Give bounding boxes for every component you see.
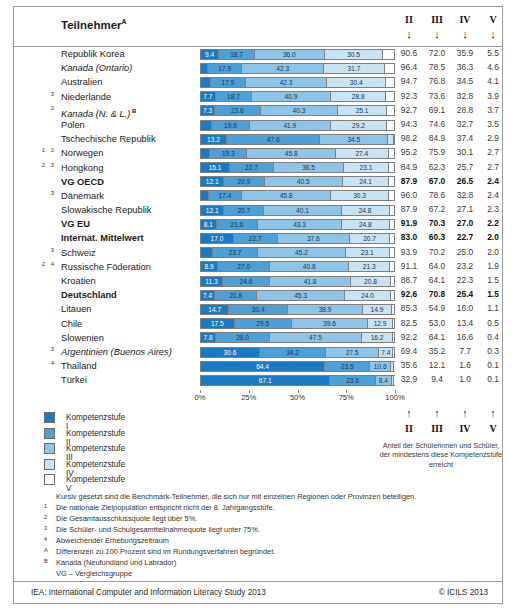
cumulative-value-II: 92.7 — [395, 105, 423, 115]
cumulative-value-II: 90.6 — [395, 48, 423, 58]
stacked-bar: 17.529.539.612.9 — [200, 318, 395, 329]
bar-segment-level-5 — [390, 206, 394, 215]
bar-segment-level-2: 17.9 — [208, 64, 243, 73]
bar-segment-level-3: 47.5 — [270, 333, 362, 342]
row-footnote-marker: 2 — [14, 104, 58, 118]
stacked-bar: 17.942.331.7 — [200, 63, 395, 74]
cumulative-values: 92.373.632.83.9 — [395, 91, 503, 104]
cumulative-value-III: 35.2 — [423, 346, 451, 356]
cumulative-value-III: 64.1 — [423, 275, 451, 285]
country-label: Kroatien — [61, 275, 207, 287]
bar-segment-level-2: 22.7 — [234, 234, 278, 243]
stacked-bar: 15.122.736.523.1 — [200, 162, 395, 173]
stacked-bar: 13.247.634.5 — [200, 134, 395, 145]
bar-segment-level-2: 18.7 — [219, 50, 255, 59]
figure-frame: TeilnehmerA II↓III↓IV↓V↓ Republik Korea9… — [13, 6, 503, 604]
cumulative-value-II: 87.9 — [395, 176, 423, 186]
row-footnote-marker — [14, 331, 58, 345]
cumulative-values: 96.478.536.34.6 — [395, 62, 503, 75]
footnote: ADifferenzen zu 100 Prozent sind im Rund… — [44, 546, 474, 557]
bar-segment-level-2: 20.9 — [224, 177, 264, 186]
down-arrow-icon: ↓ — [451, 28, 479, 40]
cumulative-value-IV: 34.5 — [451, 76, 479, 86]
bar-segment-level-3: 40.1 — [264, 206, 341, 215]
stacked-bar: 7.828.047.516.2 — [200, 332, 395, 343]
bar-segment-level-4: 7.4 — [379, 348, 393, 357]
cumulative-value-III: 54.9 — [423, 303, 451, 313]
cumulative-value-V: 2.0 — [479, 232, 507, 242]
footnote: 4Abweichender Erhebungszeitraum — [44, 535, 474, 546]
axis-tick-label: 75% — [339, 393, 354, 402]
bar-segment-level-2: 22.7 — [230, 163, 274, 172]
bar-segment-level-1 — [201, 78, 211, 87]
cumulative-value-V: 0.4 — [479, 332, 507, 342]
cumulative-value-II: 88.7 — [395, 275, 423, 285]
bar-segment-level-1 — [201, 64, 208, 73]
cumulative-value-II: 91.9 — [395, 218, 423, 228]
bar-segment-level-2: 24.6 — [223, 277, 270, 286]
cumulative-value-IV: 28.8 — [451, 105, 479, 115]
cumulative-value-II: 95.2 — [395, 147, 423, 157]
cumulative-value-IV: 27.0 — [451, 218, 479, 228]
table-row: 4Thailand64.423.510.635.612.11.60.1 — [14, 359, 502, 373]
stacked-bar: 17.445.830.3 — [200, 190, 395, 201]
cumulative-value-IV: 16.6 — [451, 332, 479, 342]
bar-segment-level-2: 30.4 — [229, 305, 288, 314]
axis-tick-label: 100% — [385, 393, 404, 402]
footnote-text: Differenzen zu 100 Prozent sind im Rundu… — [56, 547, 275, 556]
cumulative-value-III: 67.0 — [423, 176, 451, 186]
up-arrow-icon: ↑ — [451, 407, 479, 419]
cumulative-value-II: 93.9 — [395, 247, 423, 257]
cumulative-value-III: 60.3 — [423, 232, 451, 242]
cumulative-values: 32.99.41.00.1 — [395, 374, 503, 387]
country-label: Slowenien — [61, 332, 207, 344]
axis-tick-label: 25% — [241, 393, 256, 402]
table-header: TeilnehmerA II↓III↓IV↓V↓ — [14, 7, 502, 47]
row-footnote-marker: 3 — [14, 189, 58, 203]
bar-segment-level-5 — [390, 234, 394, 243]
cumulative-values: 96.078.632.82.4 — [395, 190, 503, 203]
bar-segment-level-1: 7.8 — [201, 333, 216, 342]
bar-segment-level-5 — [393, 319, 394, 328]
x-axis: 0%25%50%75%100% — [200, 390, 395, 404]
down-arrow-icon: ↓ — [423, 28, 451, 40]
stacked-bar: 30.634.227.57.4 — [200, 347, 395, 358]
cumulative-values: 35.612.11.60.1 — [395, 360, 503, 373]
cumulative-values: 87.967.026.52.4 — [395, 176, 503, 189]
bar-segment-level-4: 30.5 — [325, 50, 384, 59]
cumulative-legend-note: Anteil der Schülerinnen und Schüler, der… — [378, 441, 504, 469]
bar-segment-level-4: 21.3 — [349, 262, 390, 271]
bar-segment-level-3: 43.3 — [258, 220, 342, 229]
row-footnote-marker: 2 3 — [14, 161, 58, 175]
country-label: Tschechische Republik — [61, 133, 207, 145]
cumulative-value-V: 2.7 — [479, 147, 507, 157]
cumulative-value-II: 92.6 — [395, 289, 423, 299]
stacked-bar: 64.423.510.6 — [200, 361, 395, 372]
footnote-marker: 3 — [44, 523, 47, 534]
bar-segment-level-2: 23.5 — [325, 362, 370, 371]
bar-segment-level-5 — [383, 50, 394, 59]
cumulative-value-III: 75.9 — [423, 147, 451, 157]
bar-segment-level-2: 18.7 — [216, 92, 252, 101]
cumulative-value-V: 4.6 — [479, 62, 507, 72]
cumulative-value-II: 92.2 — [395, 332, 423, 342]
bar-segment-level-3: 45.2 — [258, 248, 345, 257]
cumulative-value-V: 0.1 — [479, 360, 507, 370]
legend-swatch-icon — [44, 443, 55, 454]
bar-segment-level-4: 14.9 — [363, 305, 392, 314]
legend-swatch-icon — [44, 474, 55, 485]
cumulative-value-III: 72.0 — [423, 48, 451, 58]
footnote-text: Kursiv gesetzt sind die Benchmark-Teilne… — [56, 492, 416, 501]
cumulative-values: 82.553.013.40.5 — [395, 318, 503, 331]
row-footnote-marker — [14, 274, 58, 288]
cumulative-legend-level-IV: IV — [451, 423, 479, 434]
row-footnote-marker — [14, 175, 58, 189]
country-label: Deutschland — [61, 289, 207, 301]
cumulative-value-V: 4.1 — [479, 76, 507, 86]
cumulative-legend-level-V: V — [479, 423, 507, 434]
cumulative-values: 87.967.227.12.3 — [395, 204, 503, 217]
bar-segment-level-3: 34.5 — [320, 135, 388, 144]
cumulative-value-II: 87.9 — [395, 204, 423, 214]
footnote-marker: 1 — [44, 501, 47, 512]
cumulative-value-V: 2.9 — [479, 133, 507, 143]
